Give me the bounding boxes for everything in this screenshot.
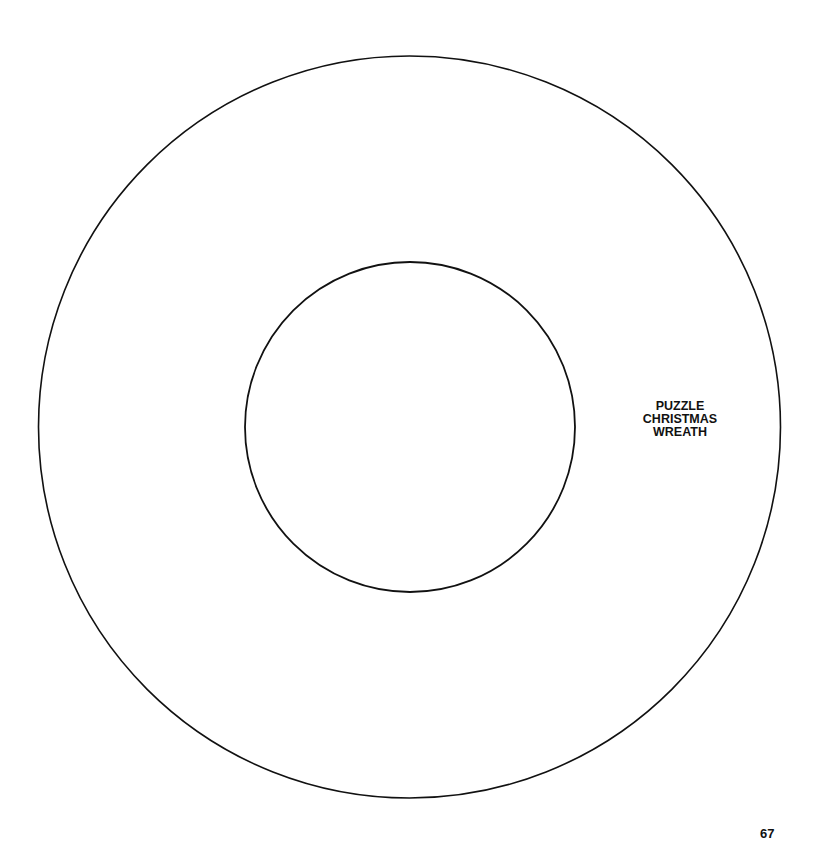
pattern-title: PUZZLE CHRISTMAS WREATH [620, 400, 740, 439]
pattern-page: PUZZLE CHRISTMAS WREATH 67 [0, 0, 817, 843]
page-number: 67 [760, 826, 774, 841]
inner-circle [245, 262, 575, 592]
title-line-3: WREATH [620, 426, 740, 439]
